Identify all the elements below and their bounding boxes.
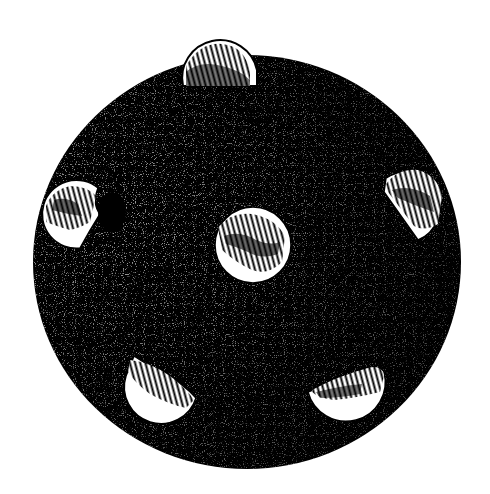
spot-center (215, 207, 291, 283)
spot-top (182, 40, 257, 86)
sphere-illustration (0, 0, 490, 494)
